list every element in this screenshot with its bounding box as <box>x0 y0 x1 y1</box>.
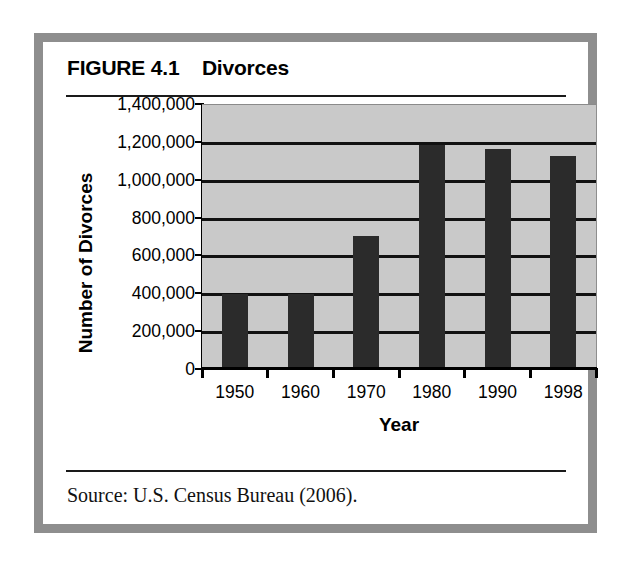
x-axis-tick-mark <box>595 368 598 378</box>
gridline <box>202 293 596 296</box>
gridline <box>202 331 596 334</box>
bar <box>419 145 445 370</box>
y-axis-tick-label: 1,000,000 <box>73 169 195 190</box>
x-axis-tick-mark <box>463 368 466 378</box>
bar-chart: Number of Divorces 0200,000400,000600,00… <box>43 102 588 462</box>
bar <box>222 294 248 370</box>
y-axis-tick-label: 600,000 <box>73 245 195 266</box>
gridline <box>202 142 596 145</box>
figure-inner: FIGURE 4.1 Divorces Number of Divorces 0… <box>43 42 588 524</box>
y-axis-tick-label: 0 <box>73 359 195 380</box>
x-axis-tick-label: 1980 <box>412 382 451 403</box>
x-axis-tick-mark <box>332 368 335 378</box>
x-axis-tick-mark <box>266 368 269 378</box>
x-axis-tick-mark <box>201 368 204 378</box>
x-axis-title: Year <box>202 414 596 436</box>
figure-frame: FIGURE 4.1 Divorces Number of Divorces 0… <box>34 33 597 533</box>
y-axis-tick-label: 1,400,000 <box>73 94 195 115</box>
x-axis-tick-mark <box>398 368 401 378</box>
bar <box>550 156 576 370</box>
source-note: Source: U.S. Census Bureau (2006). <box>67 484 358 507</box>
y-axis-tick-label: 200,000 <box>73 321 195 342</box>
x-axis-tick-label: 1970 <box>347 382 386 403</box>
y-axis-tick-label: 800,000 <box>73 207 195 228</box>
x-axis-tick-mark <box>529 368 532 378</box>
gridline <box>202 218 596 221</box>
page-title: FIGURE 4.1 Divorces <box>67 56 289 80</box>
bar <box>353 236 379 370</box>
bar <box>485 149 511 370</box>
gridline <box>202 255 596 258</box>
plot-area <box>202 104 596 370</box>
source-divider <box>66 470 566 472</box>
x-axis-tick-label: 1990 <box>478 382 517 403</box>
bar <box>288 294 314 370</box>
x-axis-tick-label: 1950 <box>215 382 254 403</box>
y-axis-tick-labels: 0200,000400,000600,000800,0001,000,0001,… <box>73 102 195 434</box>
y-axis-tick-label: 1,200,000 <box>73 131 195 152</box>
gridline <box>202 180 596 183</box>
x-axis-tick-label: 1998 <box>544 382 583 403</box>
y-axis-tick-label: 400,000 <box>73 283 195 304</box>
x-axis-tick-label: 1960 <box>281 382 320 403</box>
